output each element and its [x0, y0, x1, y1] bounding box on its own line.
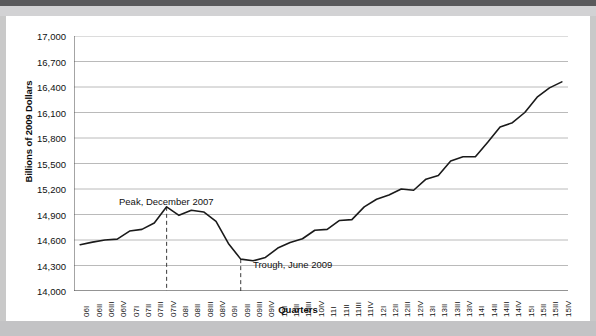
y-tick-label: 15,200 — [20, 184, 66, 195]
y-tick-label: 16,400 — [20, 82, 66, 93]
gdp-line-chart: Billions of 2009 Dollars 17,00016,70016,… — [6, 16, 590, 321]
trough-annotation-label: Trough, June 2009 — [253, 259, 332, 270]
y-tick-label: 14,600 — [20, 235, 66, 246]
y-tick-label: 14,900 — [20, 209, 66, 220]
y-axis-tick-labels: 17,00016,70016,40016,10015,80015,50015,2… — [20, 16, 66, 321]
y-tick-label: 15,800 — [20, 133, 66, 144]
gridlines — [74, 36, 568, 291]
gdp-series-line — [80, 82, 562, 261]
plot-area — [74, 36, 568, 291]
peak-annotation-label: Peak, December 2007 — [119, 196, 214, 207]
y-tick-label: 16,700 — [20, 56, 66, 67]
x-axis-title: Quarters — [6, 304, 590, 315]
y-tick-label: 16,100 — [20, 107, 66, 118]
plot-svg — [74, 36, 568, 291]
y-tick-label: 15,500 — [20, 158, 66, 169]
y-tick-label: 14,000 — [20, 286, 66, 297]
y-tick-label: 14,300 — [20, 260, 66, 271]
page-sheet: Billions of 2009 Dollars 17,00016,70016,… — [6, 16, 590, 321]
bottom-decor-band — [0, 321, 596, 336]
y-tick-label: 17,000 — [20, 31, 66, 42]
secondary-decor-band — [0, 6, 596, 16]
